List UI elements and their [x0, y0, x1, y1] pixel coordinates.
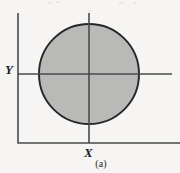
- figure-panel: Y X (a): [0, 0, 180, 173]
- figure-caption: (a): [83, 159, 119, 169]
- x-axis-label: X: [84, 146, 93, 159]
- y-axis-label: Y: [5, 63, 13, 76]
